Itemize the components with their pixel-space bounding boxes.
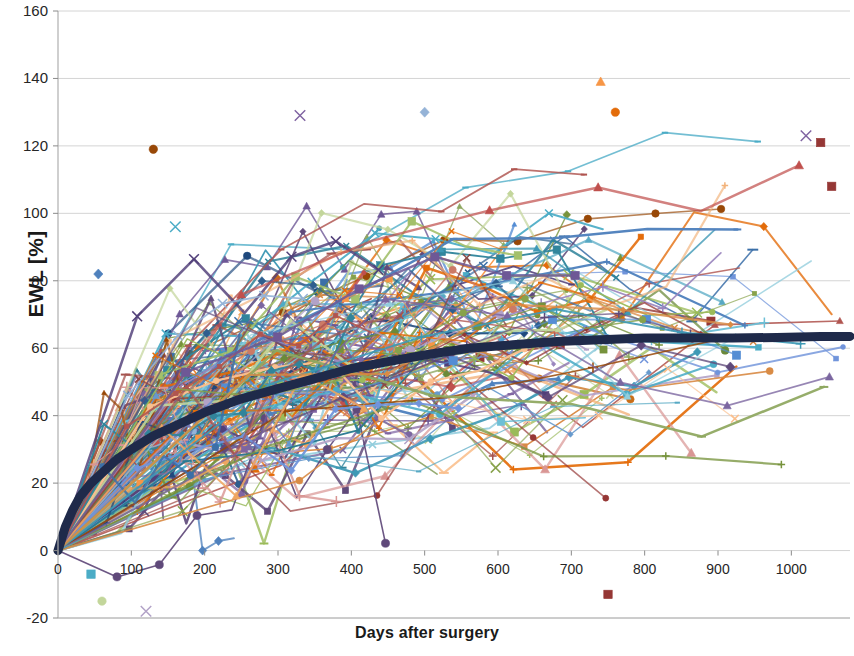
data-point-marker-triangle — [512, 222, 517, 226]
data-point-marker-square — [827, 182, 835, 190]
spaghetti-chart: -200204060801001201401600100200300400500… — [0, 0, 854, 656]
data-point-marker-square — [604, 590, 612, 598]
data-point-marker-square — [752, 291, 756, 295]
x-tick-label: 200 — [193, 561, 217, 577]
data-point-marker-circle — [449, 266, 456, 273]
y-tick-label: 60 — [31, 339, 48, 356]
data-point-marker-square — [553, 246, 561, 254]
data-point-marker-circle — [717, 205, 724, 212]
data-point-marker-circle — [311, 297, 319, 305]
data-point-marker-circle — [362, 271, 366, 275]
data-point-marker-square — [182, 368, 190, 376]
data-point-marker-circle — [323, 446, 331, 454]
data-point-marker-square — [124, 424, 129, 429]
data-point-marker-square — [351, 295, 359, 303]
data-point-marker-diamond — [420, 107, 429, 117]
x-tick-label: 0 — [54, 561, 62, 577]
data-point-marker-square — [217, 364, 222, 369]
data-point-marker-circle — [378, 415, 384, 421]
data-point-marker-circle — [639, 316, 646, 323]
data-point-marker-x — [801, 131, 812, 142]
data-point-marker-square — [571, 271, 579, 279]
data-point-marker-circle — [187, 472, 194, 479]
data-point-marker-triangle — [457, 204, 462, 209]
data-point-marker-cross — [759, 318, 769, 328]
data-point-marker-circle — [522, 296, 529, 303]
data-point-marker-square — [273, 333, 281, 341]
x-tick-label: 400 — [340, 561, 364, 577]
data-point-marker-circle — [766, 368, 773, 375]
data-point-marker-cross — [540, 453, 547, 460]
data-point-marker-circle — [155, 561, 163, 569]
y-tick-label: 120 — [23, 137, 48, 154]
y-tick-label: 0 — [40, 542, 48, 559]
data-point-marker-square — [449, 357, 457, 365]
data-point-marker-square — [87, 570, 95, 578]
data-point-marker-circle — [603, 495, 609, 501]
data-point-marker-x — [189, 254, 199, 264]
x-tick-label: 100 — [120, 561, 144, 577]
data-point-marker-cross — [662, 452, 669, 459]
data-point-marker-square — [173, 391, 178, 396]
y-tick-label: 140 — [23, 69, 48, 86]
chart-canvas: -200204060801001201401600100200300400500… — [0, 0, 854, 656]
data-point-marker-circle — [296, 477, 303, 484]
x-axis-title: Days after surgery — [0, 624, 854, 642]
data-point-marker-circle — [193, 511, 201, 519]
data-point-marker-x — [491, 463, 501, 473]
data-point-marker-circle — [243, 252, 250, 259]
data-point-marker-circle — [98, 597, 106, 605]
data-point-marker-diamond — [94, 269, 103, 279]
data-point-marker-circle — [652, 210, 659, 217]
data-point-marker-circle — [709, 309, 715, 315]
gridlines — [58, 11, 850, 618]
data-point-marker-diamond — [198, 546, 206, 555]
data-point-marker-square — [497, 418, 504, 425]
data-point-marker-diamond — [693, 348, 701, 357]
data-point-marker-circle — [715, 370, 720, 375]
y-tick-label: 20 — [31, 474, 48, 491]
data-point-marker-circle — [212, 444, 219, 451]
data-point-marker-square — [834, 356, 839, 361]
data-point-marker-circle — [578, 282, 584, 288]
data-point-marker-diamond — [214, 537, 222, 546]
data-point-marker-square — [502, 271, 510, 279]
x-tick-label: 900 — [706, 561, 730, 577]
data-point-marker-cross — [294, 490, 305, 501]
data-point-marker-square — [756, 345, 762, 351]
data-point-marker-cross — [778, 461, 785, 468]
data-point-marker-square — [816, 138, 824, 146]
data-point-marker-circle — [213, 378, 219, 384]
data-point-marker-circle — [428, 379, 434, 385]
y-axis-title: EWL [%] — [24, 214, 48, 334]
data-point-marker-circle — [360, 377, 366, 383]
data-point-marker-cross — [331, 496, 342, 507]
data-point-marker-square — [351, 275, 355, 279]
data-point-marker-square — [333, 313, 338, 318]
data-point-marker-square — [296, 344, 301, 349]
data-point-marker-triangle — [303, 202, 310, 209]
data-point-marker-x — [170, 222, 181, 233]
data-point-marker-triangle — [585, 236, 592, 242]
data-point-marker-circle — [395, 347, 402, 354]
data-point-marker-square — [258, 332, 263, 337]
data-point-marker-square — [600, 346, 607, 353]
x-tick-label: 300 — [266, 561, 290, 577]
data-point-marker-triangle — [795, 161, 804, 169]
data-point-marker-circle — [584, 215, 591, 222]
y-tick-label: 160 — [23, 2, 48, 19]
data-point-marker-triangle — [616, 378, 624, 385]
data-point-marker-square — [514, 252, 522, 260]
data-point-marker-circle — [611, 108, 619, 116]
data-point-marker-triangle — [825, 373, 833, 380]
data-point-marker-circle — [841, 345, 846, 350]
x-tick-label: 600 — [486, 561, 510, 577]
data-point-marker-diamond — [318, 210, 324, 217]
data-point-marker-circle — [530, 435, 536, 441]
data-point-marker-square — [320, 279, 327, 286]
data-point-marker-x — [295, 110, 306, 121]
data-point-marker-x — [141, 606, 152, 617]
data-point-marker-cross — [540, 313, 549, 322]
data-point-marker-square — [408, 217, 416, 225]
y-tick-label: 40 — [31, 407, 48, 424]
